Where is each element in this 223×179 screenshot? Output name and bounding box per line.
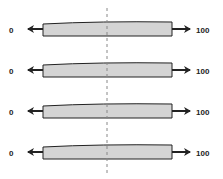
scale-row-4: 0 100 [9,145,210,159]
scale-diagram: 0 100 0 100 0 100 0 100 [0,0,223,179]
label-0: 0 [9,149,14,158]
label-100: 100 [196,108,210,117]
scale-row-3: 0 100 [9,104,210,118]
label-100: 100 [196,26,210,35]
label-100: 100 [196,149,210,158]
label-100: 100 [196,67,210,76]
label-0: 0 [9,67,14,76]
scale-row-1: 0 100 [9,22,210,36]
scale-row-2: 0 100 [9,63,210,77]
label-0: 0 [9,26,14,35]
label-0: 0 [9,108,14,117]
